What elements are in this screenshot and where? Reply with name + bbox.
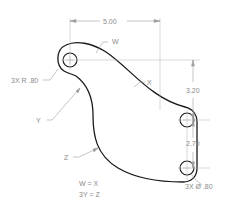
dim-vertical-lower-label: 2.70	[186, 140, 200, 147]
dimension-lines	[70, 20, 195, 169]
note-line-2: 3Y = Z	[79, 191, 100, 198]
dim-vertical-upper-label: 3.20	[186, 87, 200, 94]
part-outline	[58, 43, 197, 182]
curve-label-y: Y	[36, 117, 41, 124]
centerlines	[62, 18, 210, 180]
radius-callout: 3X R .80	[11, 77, 38, 84]
curve-label-z: Z	[64, 154, 68, 161]
note-line-1: W = X	[79, 180, 98, 187]
diameter-callout: 3X Ø .80	[185, 183, 213, 190]
leader-lines	[43, 42, 202, 185]
curve-label-x: X	[147, 79, 152, 86]
dim-horizontal-label: 5.00	[103, 18, 117, 25]
part-drawing	[0, 0, 225, 212]
curve-label-w: W	[112, 38, 119, 45]
